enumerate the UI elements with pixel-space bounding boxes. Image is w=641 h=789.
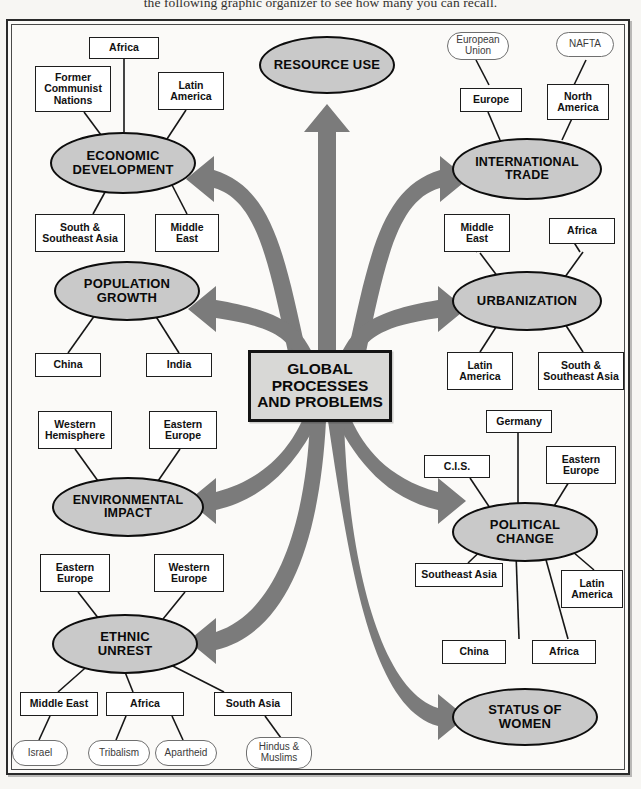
subtopic-ei-eastern-europe[interactable]: Eastern Europe [149,411,217,449]
example-eu-tribalism[interactable]: Tribalism [88,740,150,766]
subtopic-pc-africa-label: Africa [549,646,579,657]
topic-ethnic-unrest[interactable]: ETHNIC UNREST [52,614,198,674]
topic-resource-use-label: RESOURCE USE [274,58,380,72]
topic-ethnic-unrest-label: ETHNIC UNREST [98,630,153,658]
subtopic-pc-eastern-europe[interactable]: Eastern Europe [546,446,616,484]
subtopic-ed-south-southeast-asia-label: South & Southeast Asia [42,222,117,245]
graphic-organizer-page: the following graphic organizer to see h… [0,0,641,789]
topic-resource-use[interactable]: RESOURCE USE [259,36,395,94]
subtopic-eu-south-asia[interactable]: South Asia [214,692,292,716]
subtopic-pc-latin-america[interactable]: Latin America [561,570,623,608]
example-it-nafta-label: NAFTA [569,39,601,50]
example-eu-apartheid-label: Apartheid [165,748,208,759]
subtopic-ei-eastern-europe-label: Eastern Europe [164,419,203,442]
subtopic-it-north-america[interactable]: North America [547,84,609,120]
subtopic-eu-eastern-europe-label: Eastern Europe [56,562,95,585]
subtopic-ed-africa-label: Africa [109,42,139,53]
subtopic-ur-latin-america-label: Latin America [459,360,500,383]
subtopic-pc-latin-america-label: Latin America [571,578,612,601]
topic-political-change-label: POLITICAL CHANGE [490,518,560,546]
topic-political-change[interactable]: POLITICAL CHANGE [452,502,598,562]
subtopic-eu-middle-east[interactable]: Middle East [20,692,98,716]
subtopic-pc-eastern-europe-label: Eastern Europe [562,454,601,477]
center-node-global-processes[interactable]: GLOBAL PROCESSES AND PROBLEMS [248,350,392,422]
topic-population-growth[interactable]: POPULATION GROWTH [54,261,200,321]
subtopic-it-europe[interactable]: Europe [460,88,522,112]
subtopic-pc-cis-label: C.I.S. [444,461,470,472]
subtopic-ed-africa[interactable]: Africa [89,37,159,59]
subtopic-pg-china[interactable]: China [35,353,101,377]
subtopic-ur-africa[interactable]: Africa [549,218,615,244]
subtopic-ur-latin-america[interactable]: Latin America [447,352,513,390]
subtopic-ed-south-southeast-asia[interactable]: South & Southeast Asia [35,214,125,252]
subtopic-pc-germany-label: Germany [496,416,542,427]
subtopic-pg-china-label: China [53,359,82,370]
subtopic-ur-south-southeast-asia-label: South & Southeast Asia [543,360,618,383]
subtopic-it-europe-label: Europe [473,94,509,105]
subtopic-pc-china-label: China [459,646,488,657]
subtopic-pc-china[interactable]: China [442,640,506,664]
topic-international-trade-label: INTERNATIONAL TRADE [475,156,579,183]
example-eu-hindus-muslims-label: Hindus & Muslims [259,742,300,764]
subtopic-eu-western-europe[interactable]: Western Europe [154,554,224,592]
topic-urbanization-label: URBANIZATION [477,294,577,308]
subtopic-ed-latin-america[interactable]: Latin America [158,72,224,110]
subtopic-pg-india[interactable]: India [146,353,212,377]
subtopic-eu-africa[interactable]: Africa [106,692,184,716]
subtopic-eu-south-asia-label: South Asia [226,698,280,709]
example-it-european-union-label: European Union [456,35,499,57]
example-eu-tribalism-label: Tribalism [99,748,139,759]
subtopic-ed-middle-east[interactable]: Middle East [155,214,219,252]
example-eu-israel[interactable]: Israel [12,740,68,766]
subtopic-ei-western-hemisphere[interactable]: Western Hemisphere [38,411,112,449]
subtopic-pc-cis[interactable]: C.I.S. [424,455,490,478]
subtopic-ur-south-southeast-asia[interactable]: South & Southeast Asia [538,352,624,390]
subtopic-ur-middle-east-label: Middle East [460,222,493,245]
subtopic-eu-western-europe-label: Western Europe [168,562,209,585]
subtopic-pc-southeast-asia[interactable]: Southeast Asia [415,563,503,587]
center-node-label: GLOBAL PROCESSES AND PROBLEMS [257,361,383,411]
arrow-to-resource-use [304,104,350,352]
topic-status-of-women-label: STATUS OF WOMEN [488,703,562,731]
topic-urbanization[interactable]: URBANIZATION [452,271,602,331]
subtopic-eu-middle-east-label: Middle East [30,698,88,709]
subtopic-ed-former-communist-nations[interactable]: Former Communist Nations [35,66,111,112]
subtopic-pc-germany[interactable]: Germany [486,410,552,433]
example-eu-apartheid[interactable]: Apartheid [155,740,217,766]
subtopic-ei-western-hemisphere-label: Western Hemisphere [45,419,105,442]
subtopic-ed-latin-america-label: Latin America [170,80,211,103]
subtopic-ed-middle-east-label: Middle East [170,222,203,245]
example-it-european-union[interactable]: European Union [447,32,509,60]
topic-environmental-impact-label: ENVIRONMENTAL IMPACT [73,494,184,521]
example-it-nafta[interactable]: NAFTA [556,32,614,57]
topic-economic-development-label: ECONOMIC DEVELOPMENT [72,149,173,177]
topic-population-growth-label: POPULATION GROWTH [84,277,170,305]
arrow-to-ethnic-unrest [188,421,326,664]
subtopic-pg-india-label: India [167,359,192,370]
subtopic-eu-africa-label: Africa [130,698,160,709]
topic-international-trade[interactable]: INTERNATIONAL TRADE [452,138,602,200]
subtopic-pc-africa[interactable]: Africa [532,640,596,664]
subtopic-ed-former-communist-nations-label: Former Communist Nations [44,72,102,106]
topic-status-of-women[interactable]: STATUS OF WOMEN [452,688,598,746]
subtopic-it-north-america-label: North America [557,91,598,114]
subtopic-ur-middle-east[interactable]: Middle East [444,214,510,252]
example-eu-hindus-muslims[interactable]: Hindus & Muslims [246,737,312,769]
topic-environmental-impact[interactable]: ENVIRONMENTAL IMPACT [52,477,204,537]
diagram-canvas: GLOBAL PROCESSES AND PROBLEMS RESOURCE U… [0,0,641,789]
subtopic-ur-africa-label: Africa [567,225,597,236]
subtopic-eu-eastern-europe[interactable]: Eastern Europe [40,554,110,592]
subtopic-pc-southeast-asia-label: Southeast Asia [421,569,496,580]
topic-economic-development[interactable]: ECONOMIC DEVELOPMENT [50,132,196,194]
example-eu-israel-label: Israel [28,748,52,759]
